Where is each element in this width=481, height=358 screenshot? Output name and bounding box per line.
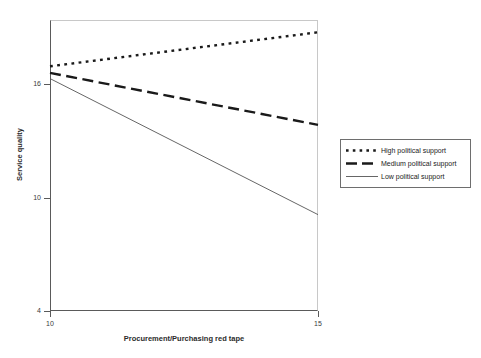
- legend-label: Medium political support: [379, 160, 456, 167]
- x-tick-label: 10: [35, 320, 65, 327]
- plot-data-canvas: [50, 20, 318, 311]
- dotted-line-icon: [345, 145, 379, 156]
- y-axis-title: Service quality: [15, 95, 24, 215]
- dashed-line-icon: [345, 158, 379, 169]
- legend-label: High political support: [379, 147, 446, 154]
- y-tick-label: 4: [16, 307, 41, 314]
- x-tick-label: 15: [303, 320, 333, 327]
- y-tick-mark: [44, 84, 50, 85]
- legend-item-high: High political support: [345, 144, 466, 157]
- legend-item-low: Low political support: [345, 170, 466, 183]
- legend-label: Low political support: [379, 173, 444, 180]
- legend-item-medium: Medium political support: [345, 157, 466, 170]
- y-tick-mark: [44, 198, 50, 199]
- chart-legend: High political support Medium political …: [340, 139, 471, 188]
- solid-line-icon: [345, 171, 379, 182]
- x-tick-mark: [318, 311, 319, 317]
- x-axis-title: Procurement/Purchasing red tape: [50, 334, 318, 343]
- series-lines: [50, 20, 318, 311]
- x-tick-mark: [50, 311, 51, 317]
- y-tick-label: 16: [16, 80, 41, 87]
- chart-figure: 16 10 4 10 15 Service quality Procuremen…: [0, 0, 481, 358]
